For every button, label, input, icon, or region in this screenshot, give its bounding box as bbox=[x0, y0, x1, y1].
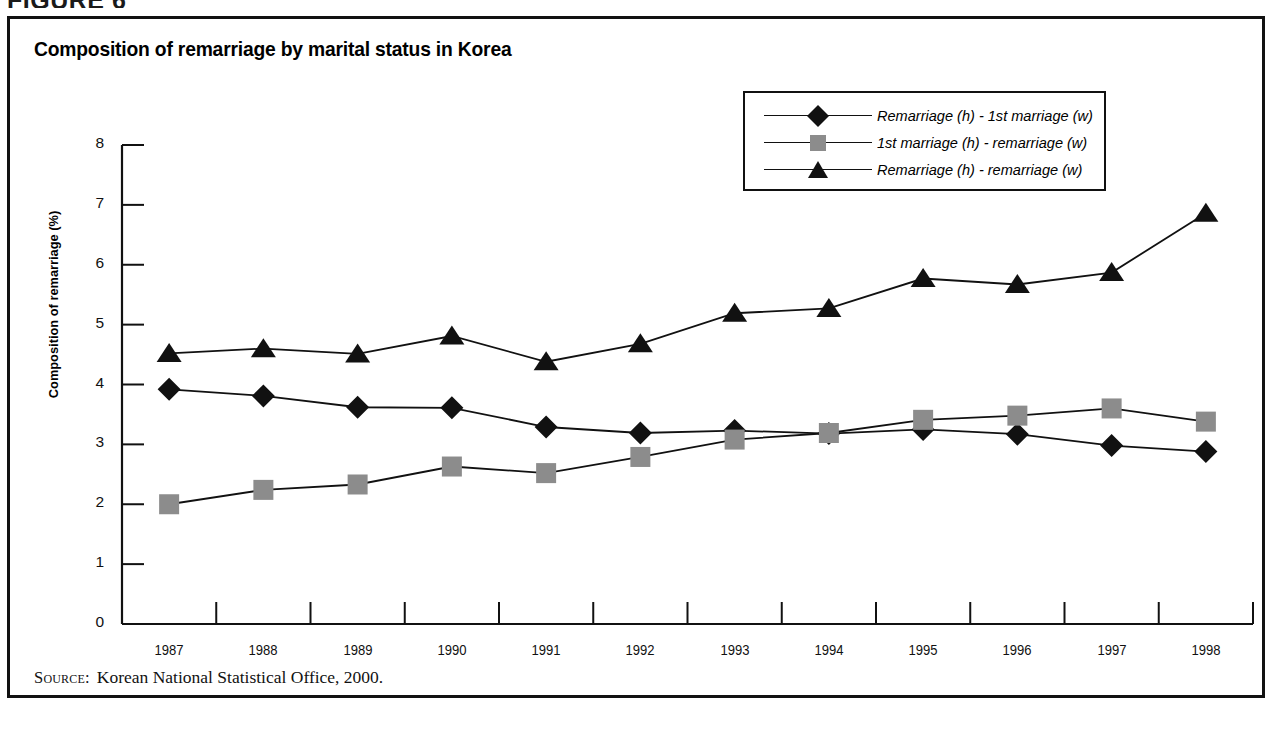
legend-item-2[interactable]: Remarriage (h) - remarriage (w) bbox=[745, 156, 1104, 183]
y-tick-label: 4 bbox=[70, 374, 104, 392]
data-point-marker bbox=[628, 333, 653, 352]
x-tick-label: 1990 bbox=[411, 642, 492, 658]
x-tick-label: 1992 bbox=[600, 642, 681, 658]
data-point-marker bbox=[630, 447, 650, 467]
figure-frame: Composition of remarriage by marital sta… bbox=[7, 16, 1265, 698]
legend-item-0[interactable]: Remarriage (h) - 1st marriage (w) bbox=[745, 102, 1104, 129]
data-point-marker bbox=[725, 430, 745, 450]
data-point-marker bbox=[251, 338, 276, 357]
x-tick-label: 1993 bbox=[694, 642, 775, 658]
x-tick-label: 1997 bbox=[1071, 642, 1152, 658]
source-line: Source:Korean National Statistical Offic… bbox=[34, 667, 383, 688]
data-point-marker bbox=[1196, 412, 1216, 432]
x-tick-label: 1989 bbox=[317, 642, 398, 658]
x-tick-label: 1998 bbox=[1165, 642, 1246, 658]
data-point-marker bbox=[1007, 406, 1027, 426]
x-tick-label: 1996 bbox=[977, 642, 1058, 658]
data-point-marker bbox=[536, 463, 556, 483]
data-point-marker bbox=[816, 298, 841, 317]
data-point-marker bbox=[629, 421, 652, 444]
data-point-marker bbox=[252, 384, 275, 407]
data-point-marker bbox=[1099, 262, 1124, 281]
data-point-marker bbox=[253, 480, 273, 500]
y-tick-label: 6 bbox=[70, 254, 104, 272]
legend-label-1: 1st marriage (h) - remarriage (w) bbox=[877, 134, 1087, 151]
data-point-marker bbox=[819, 423, 839, 443]
x-tick-label: 1994 bbox=[788, 642, 869, 658]
data-point-marker bbox=[158, 378, 181, 401]
data-point-marker bbox=[1102, 398, 1122, 418]
legend-swatch-triangle bbox=[759, 159, 877, 181]
data-point-marker bbox=[1100, 434, 1123, 457]
figure-number-label: FIGURE 6 bbox=[7, 0, 126, 8]
data-point-marker bbox=[159, 494, 179, 514]
data-point-marker bbox=[1006, 423, 1029, 446]
source-text: Korean National Statistical Office, 2000… bbox=[97, 667, 383, 687]
data-point-marker bbox=[1193, 203, 1218, 222]
source-label: Source: bbox=[34, 668, 90, 687]
y-tick-label: 7 bbox=[70, 194, 104, 212]
legend-swatch-square bbox=[759, 132, 877, 154]
x-tick-label: 1995 bbox=[883, 642, 964, 658]
legend-label-0: Remarriage (h) - 1st marriage (w) bbox=[877, 107, 1093, 124]
y-tick-label: 1 bbox=[70, 553, 104, 571]
x-tick-label: 1987 bbox=[129, 642, 210, 658]
y-tick-label: 8 bbox=[70, 134, 104, 152]
data-point-marker bbox=[442, 457, 462, 477]
y-tick-label: 2 bbox=[70, 493, 104, 511]
data-point-marker bbox=[913, 410, 933, 430]
data-point-marker bbox=[535, 416, 558, 439]
data-point-marker bbox=[1194, 440, 1217, 463]
data-point-marker bbox=[348, 474, 368, 494]
data-point-marker bbox=[911, 268, 936, 287]
data-point-marker bbox=[346, 396, 369, 419]
x-tick-label: 1991 bbox=[506, 642, 587, 658]
chart-legend: Remarriage (h) - 1st marriage (w) 1st ma… bbox=[743, 91, 1106, 191]
data-point-marker bbox=[439, 326, 464, 345]
legend-swatch-diamond bbox=[759, 105, 877, 127]
y-tick-label: 3 bbox=[70, 433, 104, 451]
x-tick-label: 1988 bbox=[223, 642, 304, 658]
legend-label-2: Remarriage (h) - remarriage (w) bbox=[877, 161, 1082, 178]
data-point-marker bbox=[440, 396, 463, 419]
y-tick-label: 0 bbox=[70, 613, 104, 631]
y-tick-label: 5 bbox=[70, 314, 104, 332]
legend-item-1[interactable]: 1st marriage (h) - remarriage (w) bbox=[745, 129, 1104, 156]
